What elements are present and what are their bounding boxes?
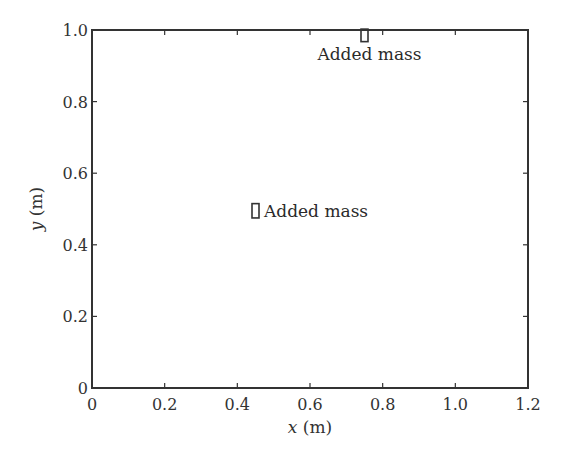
chart: 00.20.40.60.81.01.200.20.40.60.81.0 Adde… xyxy=(0,0,563,463)
y-tick-label: 0.4 xyxy=(63,236,88,255)
y-tick-label: 0 xyxy=(78,379,88,398)
y-tick-label: 0.2 xyxy=(63,307,88,326)
y-tick-label: 0.6 xyxy=(63,164,88,183)
y-tick-label: 0.8 xyxy=(63,93,88,112)
x-tick-label: 0.2 xyxy=(152,395,177,414)
added-mass-label: Added mass xyxy=(263,201,368,221)
x-tick-label: 1.0 xyxy=(443,395,468,414)
x-tick-label: 0.6 xyxy=(297,395,322,414)
x-tick-label: 1.2 xyxy=(515,395,540,414)
added-mass-label: Added mass xyxy=(316,44,421,64)
x-tick-label: 0.8 xyxy=(370,395,395,414)
y-tick-label: 1.0 xyxy=(63,21,88,40)
x-tick-label: 0 xyxy=(87,395,97,414)
x-tick-label: 0.4 xyxy=(225,395,250,414)
added-mass-markers: Added massAdded mass xyxy=(252,29,422,221)
x-axis-label: x (m) xyxy=(288,417,332,437)
y-axis-label: y (m) xyxy=(26,187,46,232)
added-mass-marker xyxy=(252,204,259,218)
